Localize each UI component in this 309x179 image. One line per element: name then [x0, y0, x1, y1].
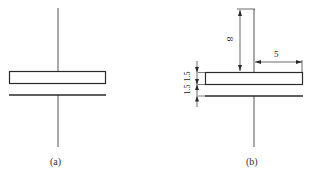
- arrow-up-icon: [195, 85, 199, 91]
- arrow-up-icon: [238, 10, 242, 16]
- dimension-label-plate-thickness: 1.5: [183, 72, 192, 82]
- dimension-label-8: 8: [225, 37, 235, 42]
- dimension-label-5: 5: [274, 49, 279, 59]
- plate-rect: [10, 72, 106, 84]
- caption-a: (a): [50, 156, 61, 167]
- arrow-down-icon: [195, 67, 199, 73]
- arrow-right-icon: [296, 60, 302, 64]
- arrow-down-icon: [238, 65, 242, 71]
- arrow-down-icon: [195, 79, 199, 85]
- arrow-up-icon: [195, 96, 199, 102]
- figure-a-drawing: [9, 8, 106, 147]
- dimension-label-gap: 1.5: [183, 85, 192, 95]
- plate-rect: [206, 73, 303, 85]
- arrow-left-icon: [255, 60, 261, 64]
- diagram-canvas: [0, 0, 309, 179]
- caption-b: (b): [246, 156, 258, 167]
- figure-b-drawing: [195, 9, 303, 147]
